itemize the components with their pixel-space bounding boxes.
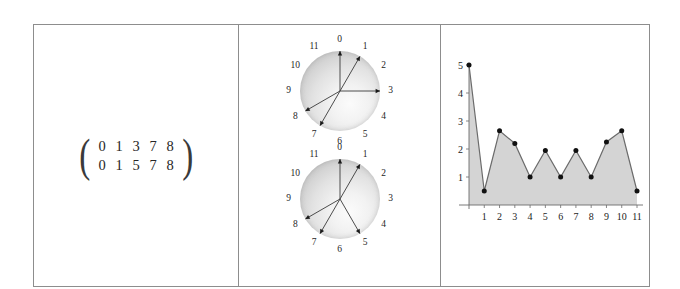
matrix-cell: 1: [111, 137, 128, 155]
pitch-class-matrix: ( 0 1 3 7 8 0 1 5 7 8 ): [34, 135, 238, 177]
chart-data-point: [573, 148, 578, 153]
chart-x-tick-label: 5: [543, 211, 548, 222]
matrix-cell: 7: [145, 137, 162, 155]
clock-hour-label: 3: [388, 194, 393, 204]
matrix-cell: 8: [162, 137, 179, 155]
panel-interval-chart: 123456789101112345: [441, 25, 649, 286]
clock-spoke-arrowhead: [337, 159, 341, 163]
chart-x-tick-label: 6: [558, 211, 563, 222]
clock-hour-label: 9: [286, 194, 291, 204]
clock-diagram-bottom: 01234567891011: [282, 141, 398, 257]
chart-data-point: [558, 175, 563, 180]
clock-hour-label: 11: [309, 150, 318, 160]
chart-data-point: [635, 189, 640, 194]
matrix-cell: 7: [145, 156, 162, 174]
clock-spoke: [305, 199, 340, 219]
chart-x-tick-label: 1: [482, 211, 487, 222]
chart-x-tick-label: 9: [604, 211, 609, 222]
clock-hour-label: 5: [363, 238, 368, 248]
clock-hour-label: 0: [337, 143, 342, 153]
chart-data-point: [619, 128, 624, 133]
chart-data-point: [467, 63, 472, 68]
chart-data-point: [589, 175, 594, 180]
chart-data-point: [482, 189, 487, 194]
figure-frame: ( 0 1 3 7 8 0 1 5 7 8 ): [33, 24, 650, 287]
chart-x-tick-label: 3: [512, 211, 517, 222]
matrix-cell: 5: [128, 156, 145, 174]
clock-hour-label: 1: [363, 42, 368, 52]
clock-hour-label: 5: [363, 130, 368, 140]
clock-hour-label: 10: [291, 169, 301, 179]
chart-x-tick-label: 2: [497, 211, 502, 222]
clock-hour-label: 8: [293, 220, 298, 230]
clock-spoke: [320, 91, 340, 126]
clock-hour-label: 4: [381, 112, 386, 122]
clock-hour-label: 0: [337, 35, 342, 45]
chart-data-point: [497, 128, 502, 133]
clock-spoke: [340, 56, 360, 91]
clock-spoke: [305, 91, 340, 111]
chart-x-tick-label: 10: [617, 211, 627, 222]
interval-vector-chart: 123456789101112345: [447, 55, 645, 245]
matrix-row: 0 1 3 7 8: [94, 137, 179, 155]
matrix-cell: 0: [94, 137, 111, 155]
clock-hour-label: 6: [337, 245, 342, 255]
chart-y-tick-label: 1: [458, 172, 463, 183]
clock-diagram-top: 01234567891011: [282, 33, 398, 149]
matrix-left-paren: (: [79, 135, 90, 177]
chart-x-tick-label: 11: [632, 211, 642, 222]
clock-hour-label: 2: [381, 169, 386, 179]
clock-spokes: [282, 141, 398, 257]
clock-hour-label: 2: [381, 61, 386, 71]
chart-data-point: [604, 140, 609, 145]
chart-x-tick-label: 8: [589, 211, 594, 222]
clock-hour-label: 8: [293, 112, 298, 122]
clock-hour-label: 10: [291, 61, 301, 71]
clock-hour-label: 4: [381, 220, 386, 230]
clock-hour-label: 9: [286, 86, 291, 96]
chart-data-point: [543, 148, 548, 153]
clock-hour-label: 1: [363, 150, 368, 160]
matrix-cell: 0: [94, 156, 111, 174]
panel-pitch-class-matrix: ( 0 1 3 7 8 0 1 5 7 8 ): [34, 25, 239, 286]
chart-y-tick-label: 3: [458, 116, 463, 127]
chart-y-tick-label: 2: [458, 144, 463, 155]
clock-spoke-arrowhead: [375, 89, 379, 93]
clock-hour-label: 3: [388, 86, 393, 96]
chart-x-tick-label: 7: [573, 211, 578, 222]
clock-spoke: [320, 199, 340, 234]
matrix-cell: 3: [128, 137, 145, 155]
chart-data-point: [528, 175, 533, 180]
chart-x-tick-label: 4: [528, 211, 533, 222]
chart-y-tick-label: 5: [458, 60, 463, 71]
chart-y-tick-label: 4: [458, 88, 463, 99]
clock-hour-label: 11: [309, 42, 318, 52]
clock-spoke: [340, 164, 360, 199]
clock-hour-label: 7: [312, 238, 317, 248]
matrix-cell: 1: [111, 156, 128, 174]
matrix-right-paren: ): [182, 135, 193, 177]
clock-spoke: [340, 199, 360, 234]
chart-area-fill: [469, 65, 637, 205]
matrix-cell: 8: [162, 156, 179, 174]
panel-clock-diagrams: 01234567891011 01234567891011: [239, 25, 441, 286]
clock-spokes: [282, 33, 398, 149]
chart-data-point: [512, 141, 517, 146]
clock-spoke-arrowhead: [337, 51, 341, 55]
matrix-rows: 0 1 3 7 8 0 1 5 7 8: [91, 137, 182, 174]
matrix-row: 0 1 5 7 8: [94, 156, 179, 174]
clock-hour-label: 7: [312, 130, 317, 140]
